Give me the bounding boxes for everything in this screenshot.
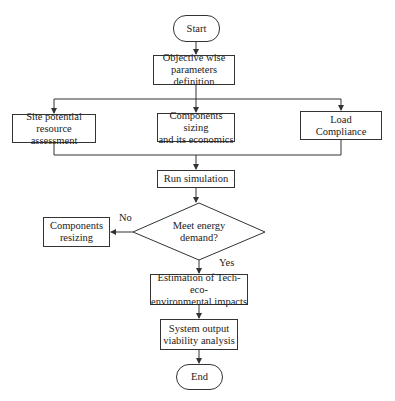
objective-line1: Objective wise [154,52,234,64]
objective-box: Objective wise parameters definition [153,55,235,85]
viability-line1: System output [163,323,234,335]
run-simulation-label: Run simulation [164,173,228,185]
end-terminal: End [176,364,223,390]
site-line2: resource assessment [13,123,95,147]
components-sizing-box: Components sizing and its economics [157,113,235,142]
decision-text: Meet energy demand? [160,218,238,246]
estimation-line2: environmental impacts [151,296,247,308]
start-terminal: Start [173,15,220,42]
components-sizing-line1: Components sizing [158,110,234,134]
site-assessment-box: Site potential resource assessment [12,114,96,143]
components-resizing-box: Components resizing [43,217,110,247]
yes-label: Yes [219,257,234,269]
resizing-line1: Components [50,220,103,232]
estimation-box: Estimation of Tech-eco- environmental im… [150,274,248,305]
run-simulation-box: Run simulation [157,170,235,188]
components-sizing-line2: and its economics [158,134,234,146]
resizing-line2: resizing [50,232,103,244]
load-line2: Compliance [316,126,367,138]
viability-box: System output viability analysis [160,319,238,350]
no-label: No [119,212,132,224]
end-label: End [191,371,208,383]
load-line1: Load [316,114,367,126]
objective-line2: parameters definition [154,64,234,88]
load-compliance-box: Load Compliance [300,111,382,140]
start-label: Start [187,23,207,35]
decision-line2: demand? [173,232,226,244]
site-line1: Site potential [13,111,95,123]
viability-line2: viability analysis [163,335,234,347]
decision-line1: Meet energy [173,220,226,232]
estimation-line1: Estimation of Tech-eco- [151,272,247,296]
